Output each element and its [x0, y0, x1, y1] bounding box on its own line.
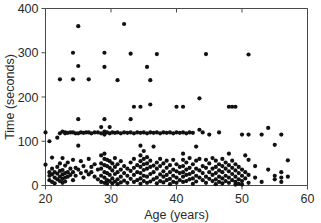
data-point — [191, 162, 195, 166]
data-point — [188, 156, 192, 160]
data-point — [76, 117, 80, 121]
data-point — [227, 181, 231, 185]
data-point — [138, 144, 142, 148]
data-point — [243, 176, 247, 180]
data-point — [165, 159, 169, 163]
data-point — [138, 153, 142, 157]
data-point — [50, 156, 54, 160]
data-point — [204, 52, 208, 56]
chart-canvas: 01002003004002030405060Age (years)Time (… — [0, 0, 321, 223]
data-point — [273, 143, 277, 147]
data-point — [155, 175, 159, 179]
data-point — [115, 177, 119, 181]
data-point — [181, 105, 185, 109]
data-point — [246, 158, 250, 162]
data-point — [63, 179, 67, 183]
data-point — [58, 77, 62, 81]
data-point — [113, 156, 117, 160]
data-point — [266, 167, 270, 171]
data-point — [119, 175, 123, 179]
data-point — [76, 24, 80, 28]
y-tick-label: 100 — [18, 135, 39, 149]
data-point — [188, 166, 192, 170]
data-point — [240, 167, 244, 171]
data-point — [93, 175, 97, 179]
data-point — [253, 175, 257, 179]
data-point — [148, 102, 152, 106]
data-point — [227, 169, 231, 173]
data-point — [174, 162, 178, 166]
data-point — [71, 77, 75, 81]
data-point — [125, 174, 129, 178]
plot-frame — [46, 9, 308, 186]
data-point — [279, 170, 283, 174]
data-point — [237, 171, 241, 175]
data-point — [286, 158, 290, 162]
data-point — [246, 181, 250, 185]
y-tick-label: 0 — [32, 179, 39, 193]
data-point — [81, 175, 85, 179]
data-point — [191, 131, 195, 135]
data-point — [142, 149, 146, 153]
data-point — [201, 130, 205, 134]
data-point — [207, 170, 211, 174]
data-point-group — [43, 22, 290, 187]
data-point — [246, 173, 250, 177]
data-point — [102, 152, 106, 156]
data-point — [161, 169, 165, 173]
data-point — [145, 161, 149, 165]
data-point — [108, 173, 112, 177]
data-point — [246, 133, 250, 137]
data-point — [243, 153, 247, 157]
data-point — [81, 164, 85, 168]
data-point — [102, 65, 106, 69]
data-point — [68, 167, 72, 171]
data-point — [286, 175, 290, 179]
data-point — [60, 156, 64, 160]
data-point — [138, 105, 142, 109]
data-point — [227, 163, 231, 167]
data-point — [87, 77, 91, 81]
data-point — [138, 171, 142, 175]
data-point — [58, 161, 62, 165]
data-point — [191, 176, 195, 180]
x-tick-label: 40 — [170, 192, 184, 206]
data-point — [204, 181, 208, 185]
data-point — [76, 64, 80, 68]
data-point — [119, 159, 123, 163]
data-point — [108, 125, 112, 129]
data-point — [181, 170, 185, 174]
x-axis-title: Age (years) — [144, 208, 209, 222]
data-point — [55, 136, 59, 140]
data-point — [145, 65, 149, 69]
data-point — [181, 152, 185, 156]
data-point — [201, 171, 205, 175]
data-point — [230, 159, 234, 163]
data-point — [260, 180, 264, 184]
data-point — [191, 170, 195, 174]
data-point — [204, 166, 208, 170]
y-tick-label: 400 — [18, 2, 39, 16]
data-point — [243, 170, 247, 174]
data-point — [220, 176, 224, 180]
data-point — [214, 171, 218, 175]
data-point — [79, 159, 83, 163]
data-point — [99, 125, 103, 129]
x-tick-label: 20 — [39, 192, 53, 206]
data-point — [129, 160, 133, 164]
data-point — [197, 175, 201, 179]
data-point — [204, 158, 208, 162]
data-point — [102, 117, 106, 121]
data-point — [214, 165, 218, 169]
data-point — [47, 139, 51, 143]
data-point — [165, 173, 169, 177]
data-point — [99, 167, 103, 171]
data-point — [122, 171, 126, 175]
data-point — [237, 165, 241, 169]
data-point — [161, 161, 165, 165]
scatter-plot-figure: 01002003004002030405060Age (years)Time (… — [0, 0, 321, 223]
data-point — [266, 126, 270, 130]
data-point — [279, 175, 283, 179]
data-point — [197, 128, 201, 132]
data-point — [181, 158, 185, 162]
